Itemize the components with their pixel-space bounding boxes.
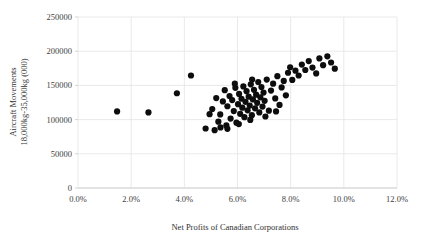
data-point <box>231 108 237 114</box>
data-point <box>206 111 212 117</box>
data-point <box>220 98 226 104</box>
y-tick-label: 100000 <box>47 115 73 125</box>
data-point <box>217 124 223 130</box>
x-tick-label: 4.0% <box>175 194 193 204</box>
data-point <box>217 111 223 117</box>
y-axis-tick-labels: 050000100000150000200000250000 <box>47 12 73 193</box>
scatter-chart: 050000100000150000200000250000 0.0%2.0%4… <box>0 0 421 237</box>
x-tick-label: 0.0% <box>69 194 87 204</box>
data-point <box>249 76 255 82</box>
data-point <box>268 87 274 93</box>
data-point <box>259 104 265 110</box>
x-tick-label: 10.0% <box>333 194 355 204</box>
x-tick-label: 2.0% <box>122 194 140 204</box>
data-point <box>283 92 289 98</box>
data-point <box>254 100 260 106</box>
data-point <box>285 70 291 76</box>
data-points <box>114 53 338 133</box>
data-point <box>247 117 253 123</box>
data-point <box>262 113 268 119</box>
data-point <box>302 67 308 73</box>
x-tick-label: 12.0% <box>386 194 408 204</box>
data-point <box>255 79 261 85</box>
data-point <box>309 65 315 71</box>
data-point <box>224 103 230 109</box>
data-point <box>203 125 209 131</box>
data-point <box>328 59 334 65</box>
data-point <box>145 109 151 115</box>
data-point <box>241 114 247 120</box>
data-point <box>306 58 312 64</box>
x-tick-label: 8.0% <box>282 194 300 204</box>
y-tick-label: 200000 <box>47 46 73 56</box>
data-point <box>299 61 305 67</box>
chart-canvas: 050000100000150000200000250000 0.0%2.0%4… <box>0 0 421 237</box>
y-tick-label: 0 <box>68 183 72 193</box>
data-point <box>287 64 293 70</box>
data-point <box>243 88 249 94</box>
data-point <box>227 115 233 121</box>
y-tick-label: 250000 <box>47 12 73 22</box>
data-point <box>215 119 221 125</box>
data-point <box>274 73 280 79</box>
data-point <box>313 70 319 76</box>
data-point <box>188 72 194 78</box>
data-point <box>316 55 322 61</box>
data-point <box>279 84 285 90</box>
data-point <box>281 78 287 84</box>
data-point <box>222 87 228 93</box>
data-point <box>270 81 276 87</box>
data-point <box>232 81 238 87</box>
y-axis-title-line2: 18,000kg-35,000kg (000) <box>19 58 29 145</box>
data-point <box>258 84 264 90</box>
data-point <box>332 66 338 72</box>
x-tick-label: 6.0% <box>229 194 247 204</box>
data-point <box>229 97 235 103</box>
data-point <box>296 72 302 78</box>
data-point <box>276 102 282 108</box>
data-point <box>262 98 268 104</box>
x-axis-tick-labels: 0.0%2.0%4.0%6.0%8.0%10.0%12.0% <box>69 194 408 204</box>
data-point <box>174 90 180 96</box>
data-point <box>264 76 270 82</box>
data-point <box>256 109 262 115</box>
data-point <box>320 62 326 68</box>
x-axis-title: Net Profits of Canadian Corporations <box>171 222 298 232</box>
data-point <box>236 121 242 127</box>
data-point <box>289 77 295 83</box>
data-point <box>247 102 253 108</box>
data-point <box>213 95 219 101</box>
data-point <box>114 108 120 114</box>
y-tick-label: 150000 <box>47 80 73 90</box>
data-point <box>224 126 230 132</box>
data-point <box>273 108 279 114</box>
data-point <box>272 95 278 101</box>
data-point <box>212 127 218 133</box>
data-point <box>324 53 330 59</box>
y-tick-label: 50000 <box>51 149 72 159</box>
data-point <box>239 105 245 111</box>
y-axis-title-line1: Aircraft Movements <box>8 67 18 136</box>
data-point <box>266 108 272 114</box>
data-point <box>260 89 266 95</box>
